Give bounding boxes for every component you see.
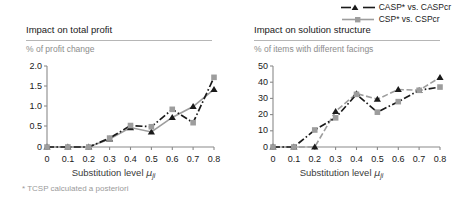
y-tick-50: 50 [258, 61, 268, 71]
y-tick-20: 20 [258, 109, 268, 119]
series-casp-right [270, 84, 443, 150]
x-tick-0p1: 0.1 [288, 154, 301, 164]
y-tick-0: 0 [37, 142, 42, 152]
y-tick-1p5: 1.5 [29, 81, 42, 91]
series-csp-left [43, 86, 217, 150]
x-axis-label: Substitution level μji [0, 167, 227, 179]
series-casp-left [44, 75, 217, 150]
x-axis-label: Substitution level μji [228, 167, 455, 179]
plot-area-total-profit: 2.0 1.5 1.0 0.5 0 [0, 0, 227, 175]
y-tick-1: 1.0 [29, 101, 42, 111]
x-tick-0p1: 0.1 [62, 154, 75, 164]
x-tick-0: 0 [44, 154, 49, 164]
x-tick-0p5: 0.5 [371, 154, 384, 164]
panel-solution-structure: Impact on solution structure % of items … [228, 0, 455, 203]
figure-root: CASP* vs. CASPcr CSP* vs. CSPcr Impact o… [0, 0, 455, 203]
x-tick-0p8: 0.8 [434, 154, 447, 164]
x-tick-0p8: 0.8 [208, 154, 221, 164]
mu-subscript: ji [380, 172, 383, 179]
series-csp-right [269, 74, 443, 150]
y-tick-30: 30 [258, 93, 268, 103]
x-tick-0p7: 0.7 [413, 154, 426, 164]
x-tick-0p2: 0.2 [309, 154, 322, 164]
x-tick-0p2: 0.2 [83, 154, 96, 164]
x-tick-0p4: 0.4 [124, 154, 137, 164]
x-tick-0p3: 0.3 [103, 154, 116, 164]
plot-area-solution-structure: 50 40 30 20 10 0 [228, 0, 455, 175]
mu-subscript: ji [152, 172, 155, 179]
x-axis-label-text: Substitution level [300, 167, 374, 178]
y-tick-0: 0 [263, 142, 268, 152]
x-tick-0p6: 0.6 [166, 154, 179, 164]
x-tick-0p7: 0.7 [187, 154, 200, 164]
y-tick-2: 2.0 [29, 61, 42, 71]
y-tick-10: 10 [258, 125, 268, 135]
panel-total-profit: Impact on total profit % of profit chang… [0, 0, 227, 203]
x-tick-0p5: 0.5 [145, 154, 158, 164]
y-tick-0p5: 0.5 [29, 121, 42, 131]
x-tick-0: 0 [270, 154, 275, 164]
footnote: * TCSP calculated a posteriori [22, 184, 128, 193]
x-axis-label-text: Substitution level [72, 167, 146, 178]
y-tick-40: 40 [258, 77, 268, 87]
x-tick-0p6: 0.6 [392, 154, 405, 164]
x-tick-0p4: 0.4 [350, 154, 363, 164]
x-tick-0p3: 0.3 [329, 154, 342, 164]
